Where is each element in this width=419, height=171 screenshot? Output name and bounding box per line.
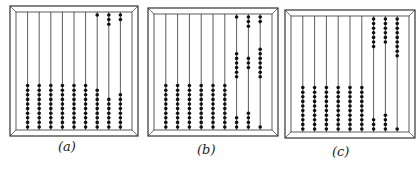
caption-a: (a) (58, 139, 76, 154)
caption-c: (c) (332, 144, 349, 159)
caption-b: (b) (197, 142, 215, 157)
